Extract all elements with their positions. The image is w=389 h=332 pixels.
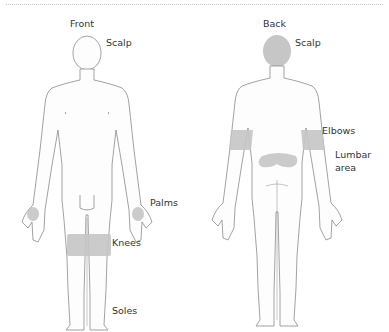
- back-elbow-left-area: [229, 130, 253, 150]
- front-scalp-label: Scalp: [106, 37, 132, 48]
- back-lumbar-label-1: Lumbar: [335, 149, 371, 160]
- back-scalp-label: Scalp: [295, 37, 321, 48]
- front-knees-area: [67, 234, 111, 256]
- front-palm-right-area: [132, 207, 144, 221]
- front-soles-label: Soles: [112, 305, 137, 316]
- front-knees-label: Knees: [112, 237, 141, 248]
- body-diagram: [0, 0, 389, 332]
- back-figure: [212, 35, 342, 326]
- front-title: Front: [70, 18, 94, 29]
- back-lumbar-label-2: area: [335, 162, 356, 173]
- front-palm-left-area: [27, 207, 39, 221]
- back-elbows-label: Elbows: [322, 125, 355, 136]
- back-title: Back: [263, 18, 286, 29]
- front-figure: [22, 36, 152, 330]
- front-palms-label: Palms: [150, 197, 178, 208]
